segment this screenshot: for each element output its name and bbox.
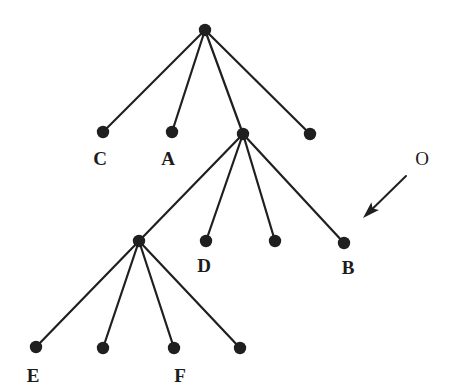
tree-edge <box>36 241 139 347</box>
annotation-arrow-shaft <box>372 176 406 209</box>
tree-node-label: A <box>161 149 175 168</box>
tree-node-dot[interactable] <box>199 24 211 36</box>
tree-diagram-canvas: CADBEFO <box>0 0 450 392</box>
tree-node-dot[interactable] <box>338 237 350 249</box>
tree-edge <box>139 241 240 348</box>
tree-edge <box>206 134 243 241</box>
tree-edge <box>139 241 174 348</box>
tree-node-label: F <box>174 366 186 385</box>
tree-node-dot[interactable] <box>234 342 246 354</box>
tree-edge <box>243 134 344 243</box>
tree-edge <box>103 241 139 348</box>
tree-edge <box>205 30 310 134</box>
tree-node-dot[interactable] <box>97 342 109 354</box>
tree-node-dot[interactable] <box>166 126 178 138</box>
tree-edge <box>205 30 243 134</box>
tree-node-dot[interactable] <box>304 128 316 140</box>
tree-node-label: C <box>93 149 107 168</box>
tree-diagram-svg <box>0 0 450 392</box>
annotation-arrow-layer <box>363 176 406 218</box>
tree-node-dot[interactable] <box>200 235 212 247</box>
tree-node-dot[interactable] <box>133 235 145 247</box>
tree-edge <box>103 30 205 132</box>
tree-node-label: B <box>342 258 355 277</box>
annotation-label: O <box>415 149 429 168</box>
tree-node-dot[interactable] <box>30 341 42 353</box>
tree-node-dot[interactable] <box>237 128 249 140</box>
tree-node-dot[interactable] <box>269 235 281 247</box>
tree-node-dot[interactable] <box>97 126 109 138</box>
tree-node-dot[interactable] <box>168 342 180 354</box>
tree-edge <box>139 134 243 241</box>
tree-edges-layer <box>36 30 344 348</box>
tree-node-label: D <box>197 256 211 275</box>
tree-node-label: E <box>27 366 40 385</box>
